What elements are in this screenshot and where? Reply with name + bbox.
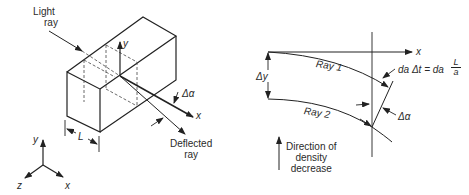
light-ray-inner: [82, 51, 120, 76]
delta-y-label: Δy: [256, 71, 268, 82]
equation-lhs: da Δt = da: [398, 64, 444, 75]
right-delta-alpha-pointer: [383, 108, 396, 115]
right-delta-alpha-label: Δα: [398, 111, 410, 122]
light-ray-arrow: [49, 31, 82, 51]
deflected-ray-label: Deflected ray: [170, 138, 212, 160]
delta-alpha-pointer-top: [174, 92, 178, 103]
light-ray-label: Light ray: [30, 6, 58, 28]
delta-alpha-pointer-bottom: [151, 118, 163, 126]
triad-y-label: y: [33, 134, 38, 145]
triad-x-label: x: [65, 180, 70, 191]
refraction-box: [67, 17, 176, 132]
right-delta-alpha-pointer-left: [356, 104, 369, 105]
box-delta-alpha-label: Δα: [182, 88, 194, 99]
ray-2-curve: [268, 99, 392, 142]
coordinate-triad: [25, 140, 63, 178]
triad-z-label: z: [17, 180, 22, 191]
equation-pointer: [383, 69, 395, 78]
right-x-axis-label: x: [416, 46, 421, 57]
diagram-canvas: [0, 0, 469, 195]
length-label: L: [78, 131, 84, 142]
box-x-axis-label: x: [196, 110, 201, 121]
box-y-axis-label: y: [123, 38, 128, 49]
tilted-wavefront: [372, 81, 393, 127]
ray-2-arrowhead: [360, 119, 371, 126]
density-direction-label: Direction of density decrease: [286, 141, 337, 174]
equation-fraction: L a: [451, 58, 461, 77]
